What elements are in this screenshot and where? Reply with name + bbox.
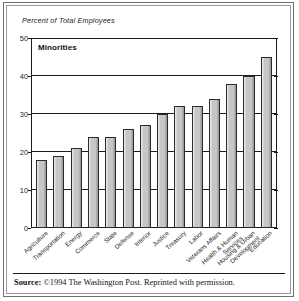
bar-slot bbox=[154, 38, 171, 228]
bar-slot bbox=[223, 38, 240, 228]
bar[interactable] bbox=[243, 76, 254, 228]
bar[interactable] bbox=[88, 137, 99, 228]
bar-slot bbox=[68, 38, 85, 228]
bar-slot bbox=[102, 38, 119, 228]
y-tick-50: 50 bbox=[20, 34, 28, 43]
y-axis-tick-labels: 01020304050 bbox=[10, 38, 28, 228]
source-note: Source: ©1994 The Washington Post. Repri… bbox=[14, 278, 235, 287]
x-tick-label: Interior bbox=[134, 230, 153, 248]
bar[interactable] bbox=[71, 148, 82, 228]
source-divider bbox=[13, 273, 285, 274]
y-tick-20: 20 bbox=[20, 148, 28, 157]
bar[interactable] bbox=[261, 57, 272, 228]
plot-area: Minorities bbox=[31, 38, 277, 228]
bar[interactable] bbox=[209, 99, 220, 228]
source-body: ©1994 The Washington Post. Reprinted wit… bbox=[43, 278, 234, 287]
y-tick-10: 10 bbox=[20, 186, 28, 195]
bar[interactable] bbox=[123, 129, 134, 228]
bar-slot bbox=[50, 38, 67, 228]
bar-slot bbox=[206, 38, 223, 228]
y-tick-40: 40 bbox=[20, 72, 28, 81]
y-axis-title: Percent of Total Employees bbox=[22, 16, 115, 25]
bar[interactable] bbox=[226, 84, 237, 228]
bar[interactable] bbox=[36, 160, 47, 228]
bar[interactable] bbox=[174, 106, 185, 228]
bar[interactable] bbox=[105, 137, 116, 228]
bar-series bbox=[31, 38, 277, 228]
bar-slot bbox=[171, 38, 188, 228]
series-title: Minorities bbox=[38, 43, 77, 52]
x-tick-label-line: Interior bbox=[133, 229, 152, 247]
bar-slot bbox=[258, 38, 275, 228]
bar[interactable] bbox=[53, 156, 64, 228]
x-axis-tick-labels: AgricultureTransportationEnergyCommerceS… bbox=[31, 229, 277, 277]
bar-slot bbox=[189, 38, 206, 228]
bar-slot bbox=[137, 38, 154, 228]
bar-slot bbox=[33, 38, 50, 228]
bar[interactable] bbox=[192, 106, 203, 228]
bar[interactable] bbox=[157, 114, 168, 228]
bar-slot bbox=[119, 38, 136, 228]
bar-slot bbox=[240, 38, 257, 228]
figure-container: Percent of Total Employees 01020304050 M… bbox=[0, 0, 299, 301]
bar[interactable] bbox=[140, 125, 151, 228]
y-tick-30: 30 bbox=[20, 110, 28, 119]
source-label: Source: bbox=[14, 278, 41, 287]
bar-slot bbox=[85, 38, 102, 228]
